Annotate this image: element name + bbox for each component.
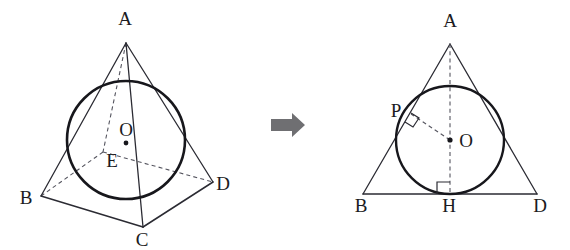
label-left-b: B	[20, 187, 33, 208]
figure-canvas: A B C D E O	[0, 0, 570, 250]
lateral-edge-a-d	[126, 43, 213, 182]
label-right-o: O	[459, 130, 473, 151]
label-left-a: A	[118, 8, 132, 29]
lateral-edge-a-b	[41, 43, 126, 196]
label-left-c: C	[136, 229, 149, 250]
label-right-d: D	[533, 195, 547, 216]
label-left-o: O	[119, 119, 133, 140]
radius-o-p	[411, 114, 450, 140]
base-edge-b-c	[41, 196, 143, 227]
right-arrow-icon	[271, 113, 305, 137]
geometry-figure: A B C D E O	[0, 0, 570, 250]
sphere-center-dot	[124, 141, 129, 146]
label-left-e: E	[106, 150, 118, 171]
label-right-p: P	[391, 100, 402, 121]
label-left-d: D	[216, 173, 230, 194]
incircle-center-dot	[447, 137, 452, 142]
right-diagram-cross-section: A P O B H D	[355, 10, 547, 216]
base-edge-c-d	[143, 182, 213, 227]
label-right-a: A	[443, 10, 457, 31]
left-diagram-pyramid: A B C D E O	[20, 8, 230, 250]
label-right-h: H	[442, 195, 456, 216]
label-right-b: B	[355, 195, 368, 216]
inscribed-sphere-outline	[67, 81, 185, 199]
